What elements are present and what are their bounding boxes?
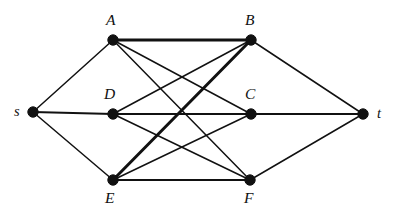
graph-node-B: [246, 35, 256, 45]
graph-node-A: [108, 35, 118, 45]
graph-edge-B-t: [251, 40, 363, 114]
edge-layer: [33, 40, 363, 180]
graph-node-C: [246, 109, 256, 119]
graph-node-label-A: A: [106, 12, 115, 28]
graph-edge-s-A: [33, 40, 113, 112]
graph-node-label-t: t: [377, 106, 381, 121]
graph-node-label-D: D: [104, 86, 115, 102]
graph-node-E: [108, 175, 118, 185]
graph-node-D: [108, 109, 118, 119]
graph-node-label-s: s: [14, 104, 20, 119]
graph-edge-F-t: [250, 114, 363, 180]
graph-node-t: [358, 109, 368, 119]
graph-node-F: [245, 175, 255, 185]
graph-node-s: [28, 107, 38, 117]
graph-diagram: sABDCEFt: [0, 0, 395, 221]
graph-edge-s-D: [33, 112, 113, 114]
graph-canvas: [0, 0, 395, 221]
graph-edge-s-E: [33, 112, 113, 180]
graph-node-label-B: B: [245, 12, 254, 28]
node-layer: [28, 35, 368, 185]
graph-node-label-F: F: [244, 190, 253, 206]
graph-node-label-E: E: [105, 190, 114, 206]
graph-node-label-C: C: [245, 86, 255, 102]
